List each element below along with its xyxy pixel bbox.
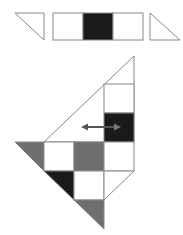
- row2-cell-white: [74, 171, 104, 200]
- column-cell-white: [104, 84, 134, 113]
- strip-cell-1: [53, 13, 83, 40]
- top-pieces: [15, 13, 180, 40]
- strip-cell-3: [113, 13, 143, 40]
- row1-cell-white-right: [104, 142, 134, 171]
- puzzle-diagram: [0, 0, 183, 235]
- right-triangle-piece: [150, 13, 180, 40]
- black-triangle: [44, 171, 74, 200]
- strip-cell-2: [83, 13, 113, 40]
- row1-cell-white: [44, 142, 74, 171]
- gray-triangle-left: [15, 142, 44, 171]
- white-triangle-right: [104, 171, 134, 200]
- left-triangle-piece: [15, 13, 44, 40]
- gray-triangle-bottom: [74, 200, 104, 229]
- row1-cell-gray: [74, 142, 104, 171]
- main-figure: [15, 56, 134, 229]
